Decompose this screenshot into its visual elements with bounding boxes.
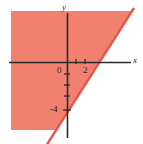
graph-canvas <box>0 0 143 144</box>
y-tick-label-neg4: -4 <box>50 105 58 114</box>
linear-inequality-figure: y x 0 2 -4 <box>0 0 143 144</box>
origin-label: 0 <box>57 66 62 75</box>
shaded-solution-region <box>11 11 132 144</box>
x-tick-label-2: 2 <box>83 66 88 75</box>
y-axis-label: y <box>62 3 66 12</box>
region-fill <box>11 11 132 144</box>
x-axis-label: x <box>133 56 137 65</box>
